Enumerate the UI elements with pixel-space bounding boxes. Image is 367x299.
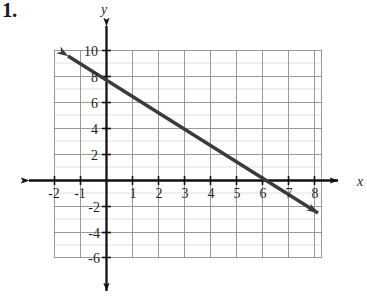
x-tick-label-5: 5 <box>234 186 241 201</box>
graph-figure: 1. <box>0 0 367 299</box>
x-tick-label-4: 4 <box>208 186 215 201</box>
x-tick-label-6: 6 <box>260 186 267 201</box>
y-tick-label-6: 6 <box>91 96 98 111</box>
y-axis-label: y <box>99 2 108 17</box>
y-tick-label-2: 2 <box>91 148 98 163</box>
x-tick-label-8: 8 <box>312 186 319 201</box>
x-tick-label-1: 1 <box>130 186 137 201</box>
x-axis-label: x <box>356 174 364 189</box>
y-tick-label-neg2: -2 <box>88 200 100 215</box>
y-tick-label-neg4: -4 <box>88 226 100 241</box>
x-tick-label-neg2: -2 <box>48 186 60 201</box>
y-tick-label-neg6: -6 <box>88 251 100 266</box>
y-tick-label-10: 10 <box>84 44 98 59</box>
x-tick-label-2: 2 <box>156 186 163 201</box>
x-tick-label-7: 7 <box>286 186 293 201</box>
y-tick-label-8: 8 <box>91 70 98 85</box>
x-tick-label-neg1: -1 <box>74 186 86 201</box>
y-tick-label-4: 4 <box>91 122 98 137</box>
coordinate-plane-graph: y x 10 8 6 4 2 -2 -4 -6 -2 -1 1 2 3 4 5 … <box>0 0 367 299</box>
x-tick-label-3: 3 <box>182 186 189 201</box>
